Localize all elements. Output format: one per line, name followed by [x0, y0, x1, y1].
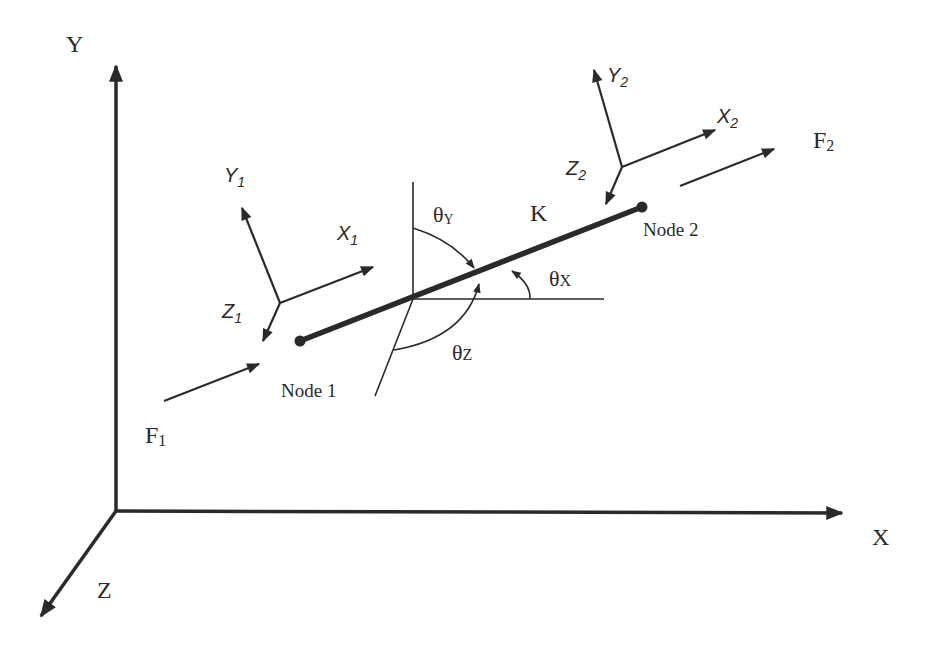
stiffness-label: K [530, 200, 548, 226]
local-x1-label: X1 [336, 222, 358, 248]
element-bar [300, 207, 642, 341]
forces: F1 F2 [145, 127, 834, 449]
local-z2-label: Z2 [565, 157, 586, 183]
theta-y-arc [413, 228, 474, 268]
local-y1-label: Y1 [224, 164, 245, 190]
node-1-label: Node 1 [281, 380, 336, 401]
local-frame-1: Y1 X1 Z1 [221, 164, 373, 341]
global-x-label: X [872, 524, 889, 550]
theta-x-arc [512, 271, 530, 299]
global-x-axis [116, 511, 842, 513]
theta-z-label: θZ [452, 340, 472, 365]
node-1-dot [295, 336, 306, 347]
local-x2-label: X2 [716, 105, 738, 131]
node-2-label: Node 2 [643, 219, 698, 240]
force-f1-arrow [164, 364, 259, 401]
global-z-label: Z [97, 577, 112, 603]
local-y1-axis [242, 208, 280, 303]
force-f2-label: F2 [813, 127, 834, 154]
local-x1-axis [280, 267, 373, 303]
global-axes: Y X Z [41, 31, 889, 616]
theta-y-label: θY [433, 202, 454, 227]
global-y-label: Y [66, 31, 83, 57]
local-y2-label: Y2 [607, 64, 628, 90]
local-z1-label: Z1 [221, 300, 242, 326]
local-frame-2: Y2 X2 Z2 [565, 64, 738, 204]
local-x2-axis [622, 130, 715, 167]
node-2-dot [637, 202, 648, 213]
local-z2-axis [606, 167, 622, 204]
local-z1-axis [263, 303, 280, 341]
spring-element-diagram: Y X Z Y1 X1 Z1 Y2 X2 Z2 θY θX θZ [0, 0, 941, 645]
theta-x-label: θX [549, 266, 572, 291]
force-f1-label: F1 [145, 422, 166, 449]
angle-references: θY θX θZ [375, 182, 604, 396]
force-f2-arrow [680, 149, 774, 186]
